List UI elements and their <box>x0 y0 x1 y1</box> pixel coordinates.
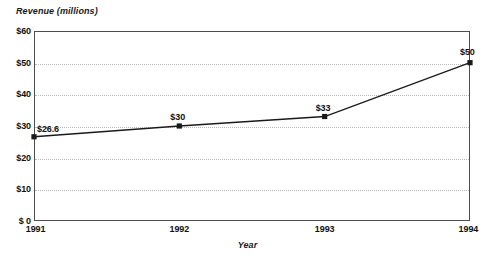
x-tick-label: 1993 <box>315 224 335 234</box>
y-tick-label: $40 <box>16 89 31 99</box>
gridline <box>35 64 469 65</box>
data-point-label: $30 <box>170 112 185 122</box>
y-tick-label: $30 <box>16 121 31 131</box>
gridline <box>35 190 469 191</box>
y-axis-tick-labels: $ 0$10$20$30$40$50$60 <box>0 31 31 221</box>
x-axis-title: Year <box>0 240 489 250</box>
y-tick-label: $20 <box>16 153 31 163</box>
y-tick-label: $10 <box>16 184 31 194</box>
x-tick-label: 1991 <box>26 224 46 234</box>
gridline <box>35 159 469 160</box>
gridline <box>35 95 469 96</box>
x-axis-tick-labels: 1991199219931994 <box>34 224 470 240</box>
revenue-line-chart: Revenue (millions) $ 0$10$20$30$40$50$60… <box>0 0 489 262</box>
x-tick-label: 1992 <box>170 224 190 234</box>
data-point-label: $26.6 <box>37 124 59 134</box>
data-point-label: $33 <box>316 103 331 113</box>
data-point-label: $50 <box>460 47 475 57</box>
x-tick-label: 1994 <box>459 224 479 234</box>
y-tick-label: $50 <box>16 58 31 68</box>
y-tick-label: $60 <box>16 26 31 36</box>
y-axis-title: Revenue (millions) <box>16 6 98 16</box>
gridline <box>35 127 469 128</box>
plot-area <box>34 31 470 221</box>
